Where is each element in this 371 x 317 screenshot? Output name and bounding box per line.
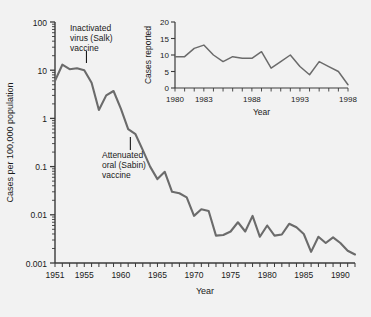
inset-y-tick-label: 15 bbox=[160, 35, 169, 44]
main-x-axis-label: Year bbox=[196, 286, 214, 296]
annotation-sabin-line: Attenuated bbox=[102, 150, 143, 160]
inset-x-tick-label: 1980 bbox=[166, 95, 184, 104]
main-x-tick-label: 1960 bbox=[111, 270, 130, 280]
polio-incidence-figure: 1001010.10.010.0011951195519601965197019… bbox=[0, 0, 371, 317]
main-x-tick-label: 1985 bbox=[294, 270, 313, 280]
main-y-axis-label: Cases per 100,000 population bbox=[5, 82, 15, 202]
inset-y-tick-label: 5 bbox=[165, 68, 170, 77]
main-y-tick-label: 0.01 bbox=[30, 210, 47, 220]
inset-x-tick-label: 1988 bbox=[243, 95, 261, 104]
inset-y-axis-label: Cases reported bbox=[143, 26, 153, 84]
main-y-tick-label: 100 bbox=[33, 18, 47, 28]
inset-x-tick-label: 1993 bbox=[291, 95, 309, 104]
annotation-sabin-line: vaccine bbox=[102, 170, 131, 180]
inset-data-line bbox=[175, 45, 348, 85]
inset-x-axis-label: Year bbox=[253, 107, 270, 117]
annotation-sabin-line: oral (Sabin) bbox=[102, 160, 146, 170]
inset-y-tick-label: 10 bbox=[160, 51, 169, 60]
main-y-tick-label: 1 bbox=[42, 114, 47, 124]
main-x-tick-label: 1975 bbox=[221, 270, 240, 280]
main-x-tick-label: 1965 bbox=[148, 270, 167, 280]
inset-x-tick-label: 1983 bbox=[195, 95, 213, 104]
inset-x-tick-label: 1998 bbox=[339, 95, 357, 104]
main-x-tick-label: 1970 bbox=[185, 270, 204, 280]
main-data-line bbox=[55, 65, 355, 255]
inset-y-tick-label: 20 bbox=[160, 18, 169, 27]
annotation-salk-line: Inactivated bbox=[70, 23, 111, 33]
main-x-tick-label: 1980 bbox=[258, 270, 277, 280]
main-y-tick-label: 10 bbox=[38, 66, 48, 76]
main-y-tick-label: 0.1 bbox=[35, 162, 47, 172]
inset-y-tick-label: 0 bbox=[165, 84, 170, 93]
main-x-tick-label: 1955 bbox=[75, 270, 94, 280]
annotation-salk-line: vaccine bbox=[70, 43, 99, 53]
main-x-tick-label: 1990 bbox=[331, 270, 350, 280]
annotation-salk-line: virus (Salk) bbox=[70, 33, 113, 43]
main-y-tick-label: 0.001 bbox=[26, 259, 48, 269]
main-x-tick-label: 1951 bbox=[46, 270, 65, 280]
